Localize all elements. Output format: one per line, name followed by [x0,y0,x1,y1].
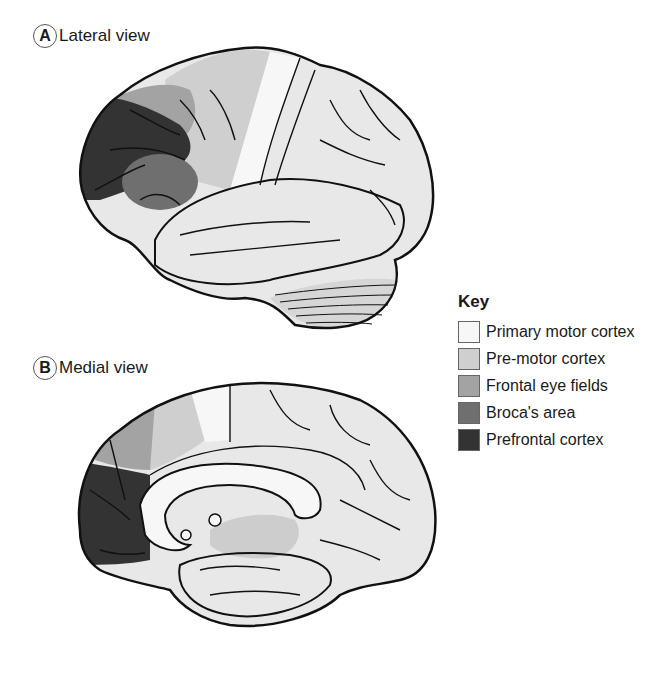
swatch-pre-motor [458,348,480,370]
legend-item-brocas-area: Broca's area [458,399,634,426]
legend-label: Frontal eye fields [486,377,608,395]
lateral-brain-diagram [70,40,450,340]
legend-label: Prefrontal cortex [486,431,603,449]
legend-title: Key [458,292,634,312]
panel-a-letter-badge: A [33,24,57,48]
legend-item-frontal-eye-fields: Frontal eye fields [458,372,634,399]
legend-label: Primary motor cortex [486,323,634,341]
legend-item-pre-motor: Pre-motor cortex [458,345,634,372]
legend-label: Pre-motor cortex [486,350,605,368]
legend: Key Primary motor cortex Pre-motor corte… [458,292,634,453]
medial-brain-diagram [70,370,450,650]
legend-item-primary-motor: Primary motor cortex [458,318,634,345]
swatch-primary-motor [458,321,480,343]
swatch-frontal-eye-fields [458,375,480,397]
swatch-brocas-area [458,402,480,424]
legend-item-prefrontal: Prefrontal cortex [458,426,634,453]
legend-label: Broca's area [486,404,575,422]
swatch-prefrontal [458,429,480,451]
panel-b-letter-badge: B [33,356,57,380]
